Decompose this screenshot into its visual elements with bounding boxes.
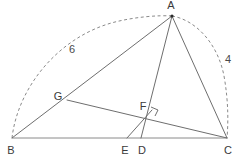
label-point-g: G (54, 90, 63, 102)
label-point-b: B (7, 144, 14, 156)
geometry-figure: A B C D E F G 6 4 (0, 0, 240, 162)
label-point-c: C (224, 144, 232, 156)
label-point-e: E (121, 144, 128, 156)
segment-ac (172, 16, 227, 138)
segment-ad (141, 16, 172, 138)
label-measure-ac: 4 (225, 53, 231, 65)
label-point-d: D (138, 144, 146, 156)
geometry-canvas: A B C D E F G 6 4 (0, 0, 240, 162)
right-angle-icon (151, 107, 158, 116)
segment-gc (67, 100, 227, 138)
label-point-f: F (140, 100, 147, 112)
vertex-dot-a (170, 14, 173, 17)
label-point-a: A (167, 0, 175, 11)
label-measure-ab: 6 (69, 43, 75, 55)
segment-ef (127, 110, 152, 138)
